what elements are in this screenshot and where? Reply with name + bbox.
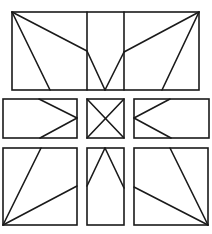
- fold-line: [105, 148, 124, 188]
- fold-line: [3, 148, 41, 225]
- middle-right-panel: [134, 99, 209, 138]
- fold-line: [39, 99, 77, 118]
- top-panel: [12, 12, 199, 90]
- fold-line: [40, 118, 77, 138]
- panel-outline: [134, 99, 209, 138]
- fold-line: [134, 118, 171, 138]
- panel-outline: [12, 12, 199, 90]
- panel-outline: [3, 99, 77, 138]
- middle-center-panel: [87, 99, 124, 138]
- fold-line: [134, 187, 208, 225]
- fold-line: [87, 148, 105, 186]
- panel-outline: [3, 148, 77, 225]
- bottom-right-panel: [134, 148, 208, 225]
- fold-line: [12, 12, 87, 51]
- fold-line: [87, 51, 105, 90]
- fold-line: [12, 12, 50, 90]
- fold-line: [3, 186, 77, 225]
- middle-left-panel: [3, 99, 77, 138]
- fold-line: [170, 148, 208, 225]
- panel-outline: [87, 148, 124, 225]
- panel-outline: [134, 148, 208, 225]
- fold-line: [162, 12, 199, 90]
- bottom-center-panel: [87, 148, 124, 225]
- fold-line: [134, 99, 170, 118]
- bottom-left-panel: [3, 148, 77, 225]
- diagram-canvas: [0, 0, 212, 234]
- fold-line: [105, 52, 124, 90]
- fold-line: [124, 12, 199, 52]
